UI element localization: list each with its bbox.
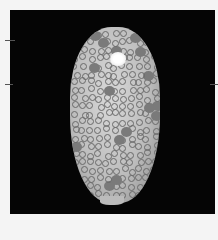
shell-ring	[154, 142, 160, 149]
shell-ring	[96, 135, 103, 142]
shell-ring	[72, 38, 79, 45]
shell-ring	[79, 158, 86, 165]
shell-ring	[137, 87, 144, 94]
shell-ring	[119, 38, 126, 45]
shell-ring	[144, 31, 151, 38]
shell-ring	[137, 129, 144, 136]
shell-ring	[97, 174, 104, 181]
shell-ring	[136, 119, 143, 126]
shell-ring	[88, 176, 95, 183]
shell-ring	[135, 143, 142, 150]
cowrie-shell	[70, 27, 160, 203]
shell-ring	[104, 134, 111, 141]
shell-ring	[87, 118, 94, 125]
shell-ring	[137, 184, 144, 191]
shell-ring	[71, 56, 78, 63]
shell-spot	[71, 185, 82, 195]
shell-ring	[112, 109, 119, 116]
shell-ring	[71, 111, 78, 118]
shell-ring	[127, 49, 134, 56]
shell-ring	[151, 53, 158, 60]
shell-ring	[89, 56, 96, 63]
shell-ring	[136, 101, 143, 108]
shell-ring	[89, 94, 96, 101]
shell-ring	[80, 31, 87, 38]
shell-ring	[120, 96, 127, 103]
shell-ring	[130, 87, 137, 94]
shell-ring	[102, 160, 109, 167]
shell-ring	[119, 120, 126, 127]
shell-ring	[143, 127, 150, 134]
shell-ring	[119, 110, 126, 117]
shell-ring	[112, 127, 119, 134]
shell-ring	[89, 168, 96, 175]
shell-ring	[119, 103, 126, 110]
shell-ring	[105, 72, 112, 79]
shell-ring	[78, 87, 85, 94]
shell-ring	[105, 176, 112, 183]
shell-ring	[129, 136, 136, 143]
shell-ring	[144, 97, 151, 104]
shell-ring	[121, 71, 128, 78]
shell-ring	[122, 165, 129, 172]
shell-ring	[79, 102, 86, 109]
shell-ring	[72, 159, 79, 166]
shell-ring	[154, 64, 160, 71]
shell-ring	[135, 165, 142, 172]
shell-ring	[104, 141, 111, 148]
shell-ring	[106, 168, 113, 175]
shell-ring	[88, 85, 95, 92]
shell-ring	[81, 46, 88, 53]
edge-tick	[210, 84, 218, 85]
shell-ring	[126, 63, 133, 70]
shell-ring	[145, 182, 152, 189]
edge-tick	[5, 84, 13, 85]
shell-ring	[129, 169, 136, 176]
shell-ring	[74, 72, 81, 79]
shell-ring	[143, 56, 150, 63]
shell-ring	[88, 143, 95, 150]
shell-spot	[151, 111, 160, 121]
shell-base	[100, 196, 124, 205]
shell-ring	[153, 185, 160, 192]
shell-ring	[87, 136, 94, 143]
shell-ring	[94, 150, 101, 157]
shell-ring	[79, 38, 86, 45]
shell-ring	[72, 136, 79, 143]
shell-ring	[137, 152, 144, 159]
shell-ring	[119, 145, 126, 152]
shell-ring	[71, 78, 78, 85]
shell-ring	[81, 166, 88, 173]
shell-ring	[89, 48, 96, 55]
shell-ring	[94, 127, 101, 134]
shell-ring	[119, 78, 126, 85]
shell-ring	[88, 72, 95, 79]
shell-ring	[79, 53, 86, 60]
shell-ring	[111, 103, 118, 110]
shell-ring	[129, 71, 136, 78]
shell-ring	[105, 62, 112, 69]
shell-ring	[97, 88, 104, 95]
shell-ring	[126, 159, 133, 166]
shell-ring	[129, 191, 136, 198]
shell-ring	[136, 63, 143, 70]
shell-spot	[114, 135, 125, 145]
shell-ring	[95, 159, 102, 166]
shell-ring	[97, 112, 104, 119]
shell-ring	[87, 153, 94, 160]
shell-ring	[145, 191, 152, 198]
shell-ring	[82, 95, 89, 102]
shell-ring	[128, 95, 135, 102]
shell-ring	[98, 71, 105, 78]
shell-ring	[112, 121, 119, 128]
shell-ring	[95, 80, 102, 87]
shell-ring	[120, 30, 127, 37]
shell-ring	[130, 79, 137, 86]
shell-ring	[70, 63, 77, 70]
shell-ring	[113, 168, 120, 175]
shell-ring	[144, 63, 151, 70]
shell-ring	[138, 159, 145, 166]
shell-spot	[89, 63, 100, 73]
shell-ring	[113, 30, 120, 37]
shell-ring	[112, 40, 119, 47]
